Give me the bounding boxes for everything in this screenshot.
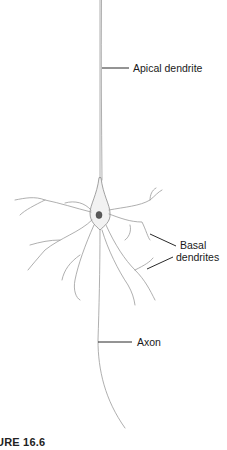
- apical-dendrite-label: Apical dendrite: [133, 62, 202, 74]
- basal-dendrite: [20, 200, 45, 215]
- basal-dendrite: [62, 255, 80, 280]
- soma: [90, 178, 110, 230]
- basal-dendrite: [74, 225, 94, 300]
- basal-dendrite: [109, 190, 162, 210]
- basal-dendrite: [125, 225, 131, 240]
- basal-dendrites-leader-lower: [147, 257, 173, 269]
- nucleus: [96, 212, 102, 219]
- basal-dendrite: [150, 188, 156, 200]
- figure-caption: URE 16.6: [0, 436, 45, 448]
- basal-dendrite: [28, 220, 92, 270]
- basal-dendrite: [135, 258, 153, 270]
- basal-dendrites-label-line2: dendrites: [176, 251, 219, 263]
- basal-dendrite: [102, 230, 135, 305]
- apical-dendrite-edge: [101, 0, 102, 180]
- axon: [98, 230, 125, 428]
- basal-dendrite: [109, 214, 150, 240]
- basal-dendrites-label-line1: Basal: [180, 239, 206, 251]
- basal-dendrites-leader-upper: [150, 234, 176, 246]
- axon-label: Axon: [137, 336, 161, 348]
